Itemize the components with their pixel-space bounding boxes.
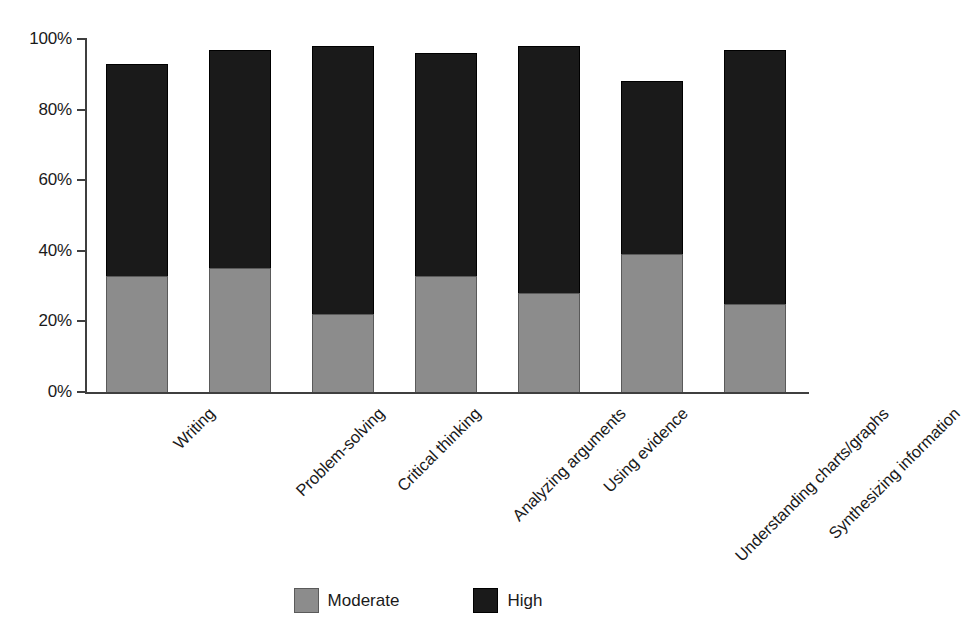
y-axis-tick-label: 40% [0, 241, 72, 261]
chart-legend: Moderate High [0, 588, 836, 613]
bar-segment-moderate[interactable] [106, 276, 168, 392]
bar-column[interactable] [415, 53, 477, 392]
bar-column[interactable] [518, 46, 580, 392]
x-axis-category-label: Synthesizing information [825, 404, 963, 543]
bar-column[interactable] [312, 46, 374, 392]
x-axis-line [85, 392, 809, 394]
bar-segment-high[interactable] [724, 50, 786, 304]
bar-segment-high[interactable] [106, 64, 168, 276]
bar-segment-moderate[interactable] [724, 304, 786, 392]
legend-label-moderate: Moderate [328, 591, 400, 611]
y-axis-tick [77, 179, 86, 181]
bar-segment-high[interactable] [518, 46, 580, 293]
y-axis-tick-label: 60% [0, 170, 72, 190]
bar-column[interactable] [106, 64, 168, 392]
bar-segment-high[interactable] [415, 53, 477, 275]
y-axis-tick-label: 80% [0, 100, 72, 120]
x-axis-category-label: Critical thinking [393, 404, 484, 495]
bar-segment-high[interactable] [312, 46, 374, 314]
legend-label-high: High [507, 591, 542, 611]
y-axis-tick [77, 109, 86, 111]
bar-segment-moderate[interactable] [621, 254, 683, 392]
x-axis-category-label: Analyzing arguments [509, 404, 630, 525]
y-axis-tick-label: 0% [0, 382, 72, 402]
high-swatch-icon [473, 588, 498, 613]
x-axis-category-label: Problem-solving [292, 404, 388, 500]
bar-series-group [86, 39, 806, 392]
bar-column[interactable] [724, 50, 786, 392]
bar-column[interactable] [209, 50, 271, 392]
y-axis-tick [77, 391, 86, 393]
y-axis-tick [77, 38, 86, 40]
moderate-swatch-icon [294, 588, 319, 613]
legend-item-moderate[interactable]: Moderate [294, 588, 400, 613]
bar-segment-high[interactable] [209, 50, 271, 269]
bar-segment-high[interactable] [621, 81, 683, 254]
legend-item-high[interactable]: High [473, 588, 542, 613]
y-axis-tick-label: 100% [0, 29, 72, 49]
y-axis-tick [77, 250, 86, 252]
y-axis-tick-label: 20% [0, 311, 72, 331]
x-axis-category-label: Writing [170, 404, 219, 453]
bar-segment-moderate[interactable] [312, 314, 374, 392]
bar-segment-moderate[interactable] [209, 268, 271, 392]
bar-segment-moderate[interactable] [415, 276, 477, 392]
y-axis-tick [77, 320, 86, 322]
bar-segment-moderate[interactable] [518, 293, 580, 392]
bar-column[interactable] [621, 81, 683, 392]
